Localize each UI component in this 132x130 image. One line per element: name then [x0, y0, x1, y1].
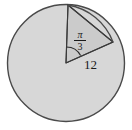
- central-angle-label: π 3: [70, 30, 90, 52]
- geometry-figure: π 3 12: [0, 0, 132, 130]
- radius-length-label: 12: [84, 58, 97, 71]
- angle-numerator: π: [70, 30, 90, 40]
- circle-diagram-svg: [0, 0, 132, 130]
- angle-denominator: 3: [70, 41, 90, 52]
